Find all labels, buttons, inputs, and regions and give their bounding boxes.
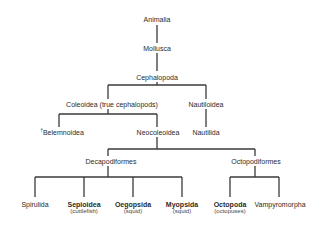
node-neocoleoidea: Neocoleoidea xyxy=(137,129,180,136)
node-coleoidea: Coleoidea (true cephalopods) xyxy=(66,101,158,108)
node-octopoda-common: (octopuses) xyxy=(214,208,245,214)
tree-connectors xyxy=(0,0,324,225)
node-spirulida: Spirulida xyxy=(21,201,48,208)
node-myopsida: Myopsida xyxy=(166,201,198,208)
node-myopsida-common: (squid) xyxy=(173,208,191,214)
node-belemnoidea-label: Belemnoidea xyxy=(43,129,84,136)
node-belemnoidea: †Belemnoidea xyxy=(40,128,84,136)
node-nautiloidea: Nautiloidea xyxy=(188,101,223,108)
node-nautilida: Nautilida xyxy=(192,129,219,136)
node-animalia: Animalia xyxy=(144,16,171,23)
node-cephalopoda: Cephalopoda xyxy=(136,74,178,81)
node-octopodiformes: Octopodiformes xyxy=(231,158,280,165)
node-octopoda: Octopoda xyxy=(214,201,247,208)
node-mollusca: Mollusca xyxy=(143,45,171,52)
node-sepioidea-common: (cuttlefish) xyxy=(70,208,98,214)
node-oegopsida: Oegopsida xyxy=(115,201,151,208)
node-oegopsida-common: (squid) xyxy=(124,208,142,214)
node-decapodiformes: Decapodiformes xyxy=(86,158,137,165)
node-sepioidea: Sepioidea xyxy=(67,201,100,208)
node-vampyromorpha: Vampyromorpha xyxy=(254,201,305,208)
